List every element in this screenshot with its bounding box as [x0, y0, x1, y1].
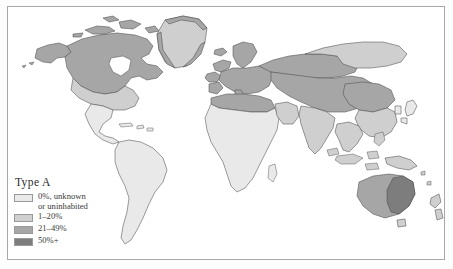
region-tasmania	[397, 219, 406, 227]
region-philippines	[374, 132, 385, 146]
region-southeast-asia	[335, 122, 363, 152]
region-caribbean	[119, 123, 153, 131]
legend-item: 1–20%	[14, 212, 122, 223]
region-eastern-australia	[387, 176, 415, 214]
region-sub-saharan-africa	[205, 104, 279, 192]
region-iberia	[209, 82, 223, 94]
region-madagascar	[268, 164, 277, 182]
legend-label-2: 21–49%	[38, 224, 67, 234]
legend-label-3: 50%+	[38, 236, 59, 246]
region-aleutians	[22, 62, 34, 68]
legend-label-1: 1–20%	[38, 212, 62, 222]
legend-swatch-2	[14, 226, 33, 234]
map-legend: Type A 0%, unknown or uninhabited 1–20% …	[14, 176, 122, 248]
legend-label-0: 0%, unknown or uninhabited	[38, 192, 88, 211]
legend-swatch-3	[14, 238, 33, 246]
legend-item: 21–49%	[14, 224, 122, 235]
region-new-guinea	[385, 156, 417, 170]
legend-swatch-1	[14, 214, 33, 222]
region-japan	[401, 100, 417, 124]
region-europe-central	[219, 66, 273, 94]
region-india	[299, 106, 335, 154]
region-new-zealand	[430, 194, 443, 220]
region-scandinavia	[233, 42, 257, 68]
region-korea	[395, 106, 401, 114]
region-indonesia	[327, 148, 379, 170]
region-south-america	[115, 140, 167, 244]
legend-item: 50%+	[14, 236, 122, 247]
legend-swatch-0	[14, 194, 33, 202]
legend-title: Type A	[15, 176, 122, 188]
legend-item: 0%, unknown or uninhabited	[14, 192, 122, 211]
region-iceland	[214, 48, 227, 56]
region-pacific-islands	[421, 171, 431, 185]
map-figure: Type A 0%, unknown or uninhabited 1–20% …	[0, 0, 453, 269]
